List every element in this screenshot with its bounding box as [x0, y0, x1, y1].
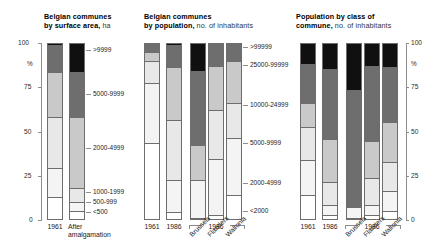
legend-population-2: 10000-24999 [250, 101, 288, 108]
bar-population-1961[interactable] [144, 43, 160, 220]
bar-segment [383, 192, 397, 212]
legend-population-4: 2000-4999 [250, 179, 281, 186]
bar-segment [209, 111, 223, 160]
y-axis-label-right-100: 100 [411, 39, 422, 46]
bar-segment [145, 53, 159, 63]
bar-segment [209, 160, 223, 216]
bar-segment [70, 212, 84, 219]
panel-population: Belgian communes by population, no. of i… [140, 0, 292, 252]
bar-segment [227, 62, 241, 104]
legend-surface-1: 5000-9999 [93, 90, 124, 97]
y-axis-unit-percent: % [27, 60, 33, 67]
y-axis-tick-0 [38, 220, 41, 221]
bar-segment [365, 179, 379, 206]
legend-dash-surface-2 [86, 148, 91, 149]
y-axis-label-right-50: 50 [411, 128, 418, 135]
bar-popclass-1961[interactable] [300, 43, 316, 220]
bar-segment [347, 91, 361, 207]
bar-surface-1961[interactable] [47, 43, 63, 220]
bar-popclass-flanders[interactable] [364, 43, 380, 220]
bar-popclass-1986[interactable] [322, 43, 338, 220]
bar-segment [48, 73, 62, 119]
bar-segment [323, 44, 337, 70]
bar-segment [167, 213, 181, 219]
cat-label-surface-after-l1: After [68, 223, 82, 230]
panel-surface-title-units: ha [100, 21, 110, 30]
bar-segment [70, 73, 84, 119]
bar-segment [70, 189, 84, 203]
bar-segment [365, 44, 379, 67]
legend-surface-3: 1000-1999 [93, 188, 124, 195]
bar-segment [227, 104, 241, 140]
y-axis-line [41, 43, 42, 221]
bar-population-1986[interactable] [166, 43, 182, 220]
y-axis-label-0: 0 [29, 216, 33, 223]
bar-population-wallonia[interactable] [226, 43, 242, 220]
legend-surface-0: >9999 [93, 46, 111, 53]
y-axis-tick-right-0 [406, 220, 409, 221]
bar-segment [191, 44, 205, 72]
bar-segment [301, 44, 315, 65]
panel-population-title-line2: by population, [144, 21, 195, 30]
legend-population-1: 25000-99999 [250, 61, 288, 68]
panel-popclass-title-line1: Population by class of [296, 12, 374, 21]
bar-segment [365, 206, 379, 217]
legend-dash-surface-4 [86, 202, 91, 203]
bar-segment [191, 181, 205, 219]
bar-segment [323, 183, 337, 206]
bar-segment [323, 140, 337, 183]
panel-surface-title: Belgian communes by surface area, ha [44, 12, 112, 30]
legend-population-5: <2000 [250, 207, 268, 214]
cat-label-population-1986: 1986 [160, 223, 188, 231]
bar-segment [145, 144, 159, 219]
cat-label-surface-1961: 1961 [40, 223, 70, 231]
bar-popclass-brussels[interactable] [346, 43, 362, 220]
legend-surface-5: <500 [93, 208, 108, 215]
y-axis-tick-right-100 [406, 43, 409, 44]
bar-segment [347, 44, 361, 91]
legend-dash-surface-1 [86, 94, 91, 95]
y-axis-tick-right-25 [406, 176, 409, 177]
bar-population-brussels[interactable] [190, 43, 206, 220]
bar-segment [383, 163, 397, 192]
bar-segment [301, 128, 315, 161]
bar-surface-after-amalgamation[interactable] [69, 43, 85, 220]
bar-segment [323, 206, 337, 217]
panel-surface-title-line2: by surface area, [44, 21, 100, 30]
bar-segment [145, 45, 159, 53]
bar-segment [301, 65, 315, 104]
y-axis-tick-25 [38, 176, 41, 177]
bar-segment [323, 70, 337, 140]
bar-segment [191, 72, 205, 146]
bar-population-flanders[interactable] [208, 43, 224, 220]
bar-segment [48, 118, 62, 169]
bar-segment [227, 45, 241, 62]
bar-segment [301, 104, 315, 129]
y-axis-tick-50 [38, 132, 41, 133]
bar-segment [301, 161, 315, 196]
y-axis-label-75: 75 [24, 83, 31, 90]
panel-popclass-title-line2: commune, [296, 21, 333, 30]
bar-segment [227, 139, 241, 196]
bar-segment [167, 46, 181, 68]
panel-popclass-title: Population by class of commune, no. of i… [296, 12, 391, 30]
bar-popclass-wallonia[interactable] [382, 43, 398, 220]
legend-dash-population-1 [243, 65, 248, 66]
legend-population-0: >99999 [250, 43, 272, 50]
cat-label-surface-after-l2: amalgamation [68, 231, 111, 238]
bar-segment [209, 45, 223, 67]
bar-segment [145, 62, 159, 84]
y-axis-tick-75 [38, 87, 41, 88]
legend-population-3: 5000-9999 [250, 139, 281, 146]
bar-segment [70, 44, 84, 73]
y-axis-label-right-75: 75 [411, 83, 418, 90]
y-axis-label-right-25: 25 [411, 172, 418, 179]
bar-segment [48, 169, 62, 198]
bar-segment [70, 203, 84, 212]
panel-population-title-line1: Belgian communes [144, 12, 212, 21]
bar-segment [48, 198, 62, 219]
bar-segment [365, 67, 379, 142]
bar-segment [70, 118, 84, 189]
cat-label-surface-after: After amalgamation [68, 223, 128, 239]
bar-segment [167, 181, 181, 213]
